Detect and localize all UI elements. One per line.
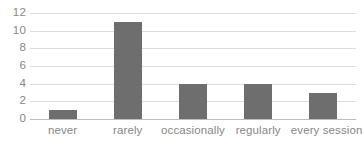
- y-axis-tick-labels: 024681012: [0, 13, 26, 119]
- bar-slot: [95, 13, 160, 119]
- bar[interactable]: [49, 110, 77, 119]
- bar-slot: [30, 13, 95, 119]
- x-axis-category-label: every session: [291, 123, 356, 137]
- bar-slot: [160, 13, 225, 119]
- y-axis-tick-label: 10: [0, 25, 26, 37]
- bar[interactable]: [244, 84, 272, 119]
- y-axis-tick-label: 0: [0, 113, 26, 125]
- x-axis-category-label: rarely: [95, 123, 160, 137]
- y-axis-tick-label: 12: [0, 7, 26, 19]
- x-axis-category-label: regularly: [226, 123, 291, 137]
- y-axis-tick-label: 4: [0, 78, 26, 90]
- bar-slot: [226, 13, 291, 119]
- bar-slot: [291, 13, 356, 119]
- y-axis-tick-label: 6: [0, 60, 26, 72]
- y-axis-tick-label: 2: [0, 96, 26, 108]
- x-axis-category-labels: neverrarelyoccasionallyregularlyevery se…: [30, 123, 356, 141]
- bar[interactable]: [179, 84, 207, 119]
- x-axis-baseline: [30, 119, 356, 120]
- x-axis-category-label: occasionally: [160, 123, 225, 137]
- bar-series: [30, 13, 356, 119]
- y-axis-tick-label: 8: [0, 43, 26, 55]
- bar[interactable]: [114, 22, 142, 119]
- x-axis-category-label: never: [30, 123, 95, 137]
- bar-chart: 024681012 neverrarelyoccasionallyregular…: [0, 0, 363, 150]
- bar[interactable]: [309, 93, 337, 120]
